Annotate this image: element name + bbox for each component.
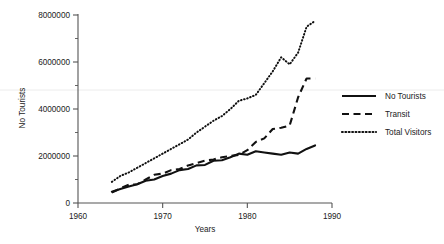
x-tick-label: 1960 [69,212,88,221]
series-paths [112,21,315,193]
x-axis-title: Years [195,225,216,234]
x-tick-label: 1980 [238,212,257,221]
series-line-transit [112,78,315,192]
y-axis-ticks [73,15,78,203]
y-axis-tick-labels: 02000000400000060000008000000 [38,11,70,208]
y-tick-label: 8000000 [38,11,70,20]
x-tick-label: 1970 [154,212,173,221]
chart-legend: No TouristsTransitTotal Visitors [342,92,431,137]
y-tick-label: 2000000 [38,152,70,161]
x-axis-ticks [78,203,332,208]
legend-label: Transit [385,110,410,119]
chart-container: 02000000400000060000008000000 1960197019… [0,0,444,244]
y-tick-label: 4000000 [38,105,70,114]
x-axis-tick-labels: 1960197019801990 [69,212,342,221]
line-chart: 02000000400000060000008000000 1960197019… [0,0,444,244]
y-tick-label: 0 [65,199,70,208]
x-tick-label: 1990 [323,212,342,221]
legend-label: Total Visitors [385,128,431,137]
legend-label: No Tourists [385,92,426,101]
series-line-total-visitors [112,21,315,182]
y-axis-title: No Tourists [18,88,27,129]
y-tick-label: 6000000 [38,58,70,67]
series-line-no-tourists [112,145,315,191]
